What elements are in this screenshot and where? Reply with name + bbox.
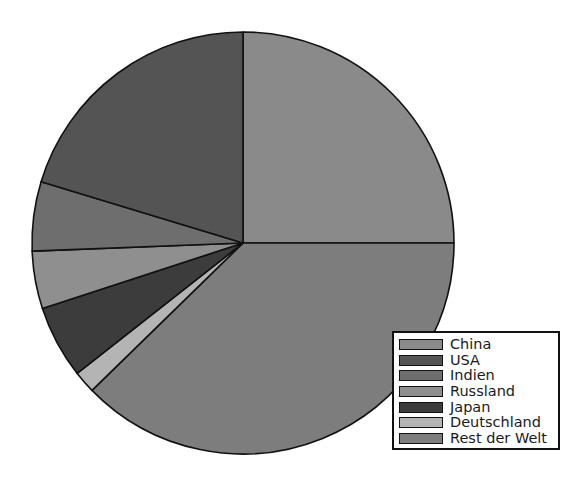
legend-item-label: China	[450, 337, 491, 352]
legend-item-label: Rest der Welt	[450, 431, 547, 446]
legend-item-label: Indien	[450, 368, 495, 383]
legend-item: Indien	[399, 368, 553, 384]
legend-color-swatch	[399, 402, 443, 413]
legend-item-label: Japan	[450, 400, 490, 415]
legend-item-label: USA	[450, 353, 480, 368]
legend-item: Russland	[399, 384, 553, 400]
legend-item: Deutschland	[399, 415, 553, 431]
pie-chart-figure: ChinaUSAIndienRusslandJapanDeutschlandRe…	[0, 0, 580, 492]
legend-color-swatch	[399, 370, 443, 381]
legend-color-swatch	[399, 339, 443, 350]
legend-color-swatch	[399, 433, 443, 444]
legend-item-label: Russland	[450, 384, 515, 399]
pie-slice	[243, 32, 454, 243]
legend-item-list: ChinaUSAIndienRusslandJapanDeutschlandRe…	[399, 337, 553, 446]
legend-color-swatch	[399, 417, 443, 428]
legend-color-swatch	[399, 386, 443, 397]
chart-legend: ChinaUSAIndienRusslandJapanDeutschlandRe…	[392, 331, 560, 450]
legend-item: Japan	[399, 399, 553, 415]
pie-slice-group	[32, 32, 454, 454]
legend-color-swatch	[399, 355, 443, 366]
legend-item: USA	[399, 353, 553, 369]
legend-item: Rest der Welt	[399, 431, 553, 447]
legend-item-label: Deutschland	[450, 415, 541, 430]
legend-item: China	[399, 337, 553, 353]
